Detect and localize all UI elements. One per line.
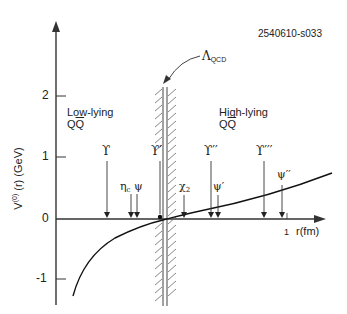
y-tick-1: 1 xyxy=(42,150,49,162)
energy-level-arrows xyxy=(104,161,285,219)
lambda-pointer-arrow xyxy=(163,56,200,84)
high-lying-label: High-lying QQ xyxy=(219,106,268,130)
label-psi3: ψ′′ xyxy=(277,169,291,181)
label-chi2: χ2 xyxy=(179,181,190,196)
y-tick-0: 0 xyxy=(42,212,49,224)
y-axis-label: V(0) (r) (GeV) xyxy=(11,147,24,209)
y-axis-arrow-icon xyxy=(52,21,60,32)
low-lying-label: Low-lying QQ xyxy=(67,106,113,130)
diagram-canvas xyxy=(0,0,347,314)
label-psi1: ψ xyxy=(134,181,143,193)
figure-id: 2540610-s033 xyxy=(258,28,322,40)
lambda-qcd-label: ΛQCD xyxy=(202,50,226,66)
potential-curve xyxy=(73,173,332,296)
label-upsilon3: ϒ′′ xyxy=(204,145,218,157)
x-tick-1: 1 xyxy=(284,226,289,238)
x-axis xyxy=(56,213,326,223)
y-tick-2: 2 xyxy=(42,89,49,101)
label-upsilon2: ϒ′ xyxy=(151,145,162,157)
label-upsilon1: ϒ xyxy=(102,145,110,157)
label-psi2: ψ′ xyxy=(213,181,224,193)
label-upsilon4: ϒ′′′ xyxy=(256,145,272,157)
lambda-qcd-wall xyxy=(155,87,176,306)
y-axis xyxy=(52,21,66,305)
label-etac: ηc xyxy=(120,181,131,196)
x-axis-arrow-icon xyxy=(314,215,326,223)
y-tick-neg1: -1 xyxy=(36,272,47,284)
x-axis-label: r(fm) xyxy=(296,225,319,237)
